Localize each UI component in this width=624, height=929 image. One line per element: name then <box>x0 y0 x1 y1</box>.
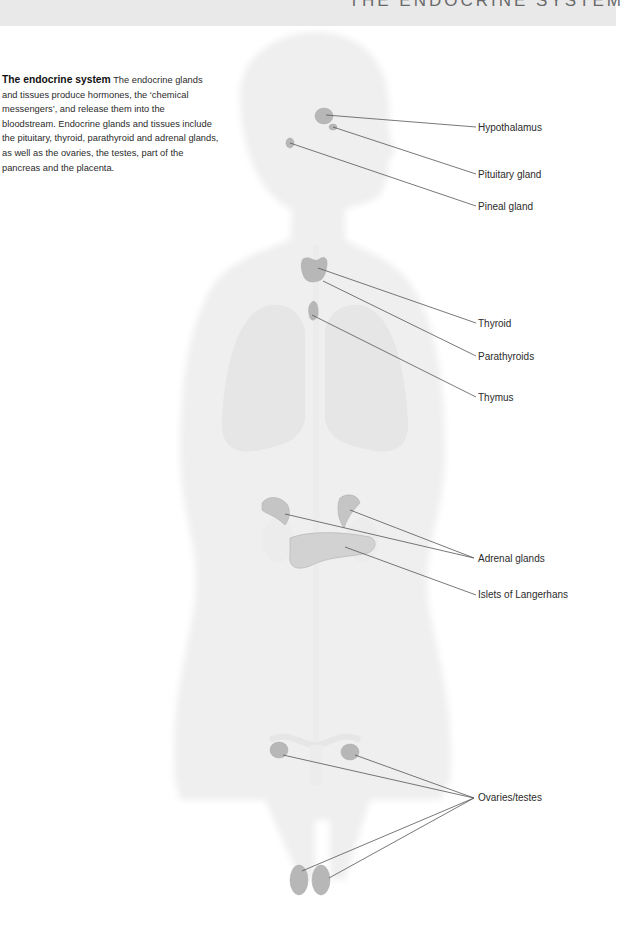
label-thyroid: Thyroid <box>478 318 511 329</box>
label-pineal-gland: Pineal gland <box>478 201 533 212</box>
ovary-right <box>341 744 359 760</box>
label-islets-of-langerhans: Islets of Langerhans <box>478 589 568 600</box>
label-ovaries-testes: Ovaries/testes <box>478 792 542 803</box>
label-pituitary-gland: Pituitary gland <box>478 169 541 180</box>
label-hypothalamus: Hypothalamus <box>478 122 542 133</box>
testis-right <box>312 865 330 895</box>
hypothalamus-gland <box>315 108 333 124</box>
label-parathyroids: Parathyroids <box>478 351 534 362</box>
label-thymus: Thymus <box>478 392 514 403</box>
label-adrenal-glands: Adrenal glands <box>478 553 545 564</box>
